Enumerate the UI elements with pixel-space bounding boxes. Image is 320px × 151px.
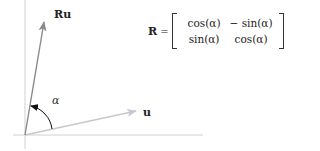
equals-sign: = [160,26,168,37]
vector-u-arrow [25,111,136,135]
matrix-cell: − sin(α) [228,16,275,31]
matrix-cell: cos(α) [228,32,275,47]
vector-ru-arrow [25,22,44,135]
matrix-symbol: R [148,25,157,38]
ru-label: Ru [54,8,71,21]
right-bracket [279,13,284,49]
matrix-cell: cos(α) [181,16,228,31]
angle-arc-icon [31,106,52,129]
matrix-cell: sin(α) [181,32,228,47]
rotation-matrix-equation: R = cos(α) − sin(α) sin(α) cos(α) [148,11,284,51]
matrix-body: cos(α) − sin(α) sin(α) cos(α) [177,16,279,47]
alpha-label: α [52,94,59,107]
u-label: u [143,106,151,119]
